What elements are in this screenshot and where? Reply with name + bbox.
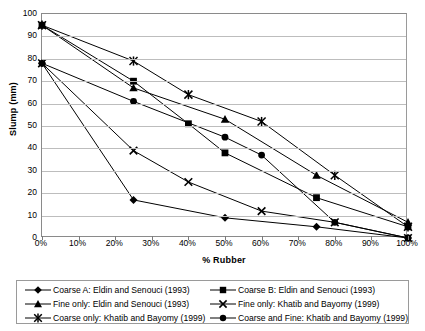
legend-item-label: Coarse A: Eldin and Senouci (1993)	[53, 285, 190, 295]
data-point-star	[258, 117, 266, 126]
y-axis-tick-label: 40	[3, 143, 37, 152]
y-axis-tick-label: 50	[3, 121, 37, 130]
y-axis-tick-label: 100	[3, 9, 37, 18]
y-axis-tick-label: 90	[3, 31, 37, 40]
chart-page: Slump (mm) 0102030405060708090100 0%10%2…	[0, 0, 425, 331]
gridline	[42, 171, 406, 172]
legend-marker-x-cross-icon	[208, 298, 238, 310]
x-axis-tick-label: 100%	[387, 239, 425, 248]
x-axis-tick-label: 50%	[204, 239, 244, 248]
legend-marker-square-icon	[208, 284, 238, 296]
x-axis-tick-label: 20%	[94, 239, 134, 248]
legend-grid: Coarse A: Eldin and Senouci (1993)Coarse…	[17, 281, 408, 325]
legend-item[interactable]: Coarse B: Eldin and Senouci (1993)	[208, 283, 408, 297]
data-point-circle	[222, 134, 229, 141]
data-point-x-cross	[185, 178, 193, 186]
x-axis-tick-labels: 0%10%20%30%40%50%60%70%80%90%100%	[41, 239, 407, 253]
legend-item[interactable]: Fine only: Eldin and Senouci (1993)	[23, 297, 208, 311]
y-axis-tick-label: 10	[3, 211, 37, 220]
gridline	[42, 81, 406, 82]
legend-item[interactable]: Coarse and Fine: Khatib and Bayomy (1999…	[208, 311, 408, 325]
legend-item-label: Fine only: Khatib and Bayomy (1999)	[238, 299, 379, 309]
data-point-diamond	[34, 286, 42, 294]
x-axis-tick-label: 0%	[21, 239, 61, 248]
data-point-circle	[39, 60, 46, 67]
y-axis-tick-label: 60	[3, 99, 37, 108]
gridline	[42, 59, 406, 60]
y-axis-tick-label: 70	[3, 76, 37, 85]
data-point-triangle	[129, 84, 137, 92]
x-axis-tick-label: 80%	[314, 239, 354, 248]
legend-item-label: Coarse only: Khatib and Bayomy (1999)	[53, 313, 205, 323]
legend-item-label: Coarse B: Eldin and Senouci (1993)	[238, 285, 375, 295]
y-axis-tick-labels: 0102030405060708090100	[0, 13, 37, 237]
legend-item-label: Fine only: Eldin and Senouci (1993)	[53, 299, 189, 309]
data-point-triangle	[221, 115, 229, 123]
slump-vs-rubber-chart: Slump (mm) 0102030405060708090100 0%10%2…	[0, 0, 425, 272]
plot-area	[41, 13, 407, 237]
data-point-diamond	[313, 223, 321, 231]
gridline	[42, 148, 406, 149]
x-axis-title: % Rubber	[41, 255, 407, 265]
legend-marker-diamond-icon	[23, 284, 53, 296]
legend-item-label: Coarse and Fine: Khatib and Bayomy (1999…	[238, 313, 408, 323]
legend-item[interactable]: Coarse A: Eldin and Senouci (1993)	[23, 283, 208, 297]
data-point-circle	[331, 219, 338, 226]
gridline	[42, 36, 406, 37]
series-2	[38, 21, 412, 226]
y-axis-tick-label: 20	[3, 188, 37, 197]
x-axis-tick-label: 60%	[241, 239, 281, 248]
data-point-circle	[220, 315, 226, 321]
x-axis-tick-label: 40%	[167, 239, 207, 248]
data-point-circle	[258, 152, 265, 159]
data-point-star	[184, 90, 192, 99]
y-axis-tick-label: 30	[3, 166, 37, 175]
data-point-square	[222, 149, 229, 156]
legend-item[interactable]: Coarse only: Khatib and Bayomy (1999)	[23, 311, 208, 325]
x-axis-tick-label: 90%	[350, 239, 390, 248]
gridline	[42, 126, 406, 127]
x-axis-tick-label: 10%	[58, 239, 98, 248]
legend-item[interactable]: Fine only: Khatib and Bayomy (1999)	[208, 297, 408, 311]
legend-marker-circle-icon	[208, 312, 238, 324]
legend: Coarse A: Eldin and Senouci (1993)Coarse…	[16, 280, 409, 324]
data-point-triangle	[312, 171, 320, 179]
gridline	[42, 104, 406, 105]
data-point-diamond	[130, 196, 138, 204]
gridline	[42, 193, 406, 194]
y-axis-tick-label: 80	[3, 54, 37, 63]
legend-marker-star-icon	[23, 312, 53, 324]
gridline	[42, 216, 406, 217]
legend-marker-triangle-icon	[23, 298, 53, 310]
data-point-star	[331, 171, 339, 180]
x-axis-tick-label: 30%	[131, 239, 171, 248]
x-axis-tick-label: 70%	[277, 239, 317, 248]
data-point-square	[220, 287, 226, 293]
data-point-square	[313, 194, 320, 201]
